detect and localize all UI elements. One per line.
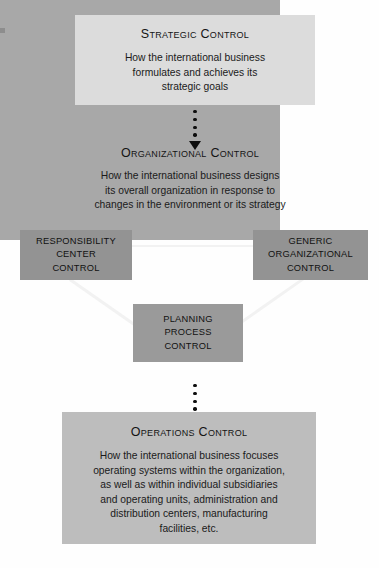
arrow-dot [193, 384, 196, 387]
body-line: facilities, etc. [71, 522, 307, 537]
body-line: distribution centers, manufacturing [71, 507, 307, 522]
connector-responsibility-to-planning [69, 278, 135, 325]
operations-control-body: How the international business focuses o… [62, 449, 316, 537]
arrow-strategic-to-organizational [187, 110, 203, 150]
body-line: as well as within individual subsidiarie… [71, 478, 307, 493]
body-line: strategic goals [84, 80, 306, 95]
subbox-line: CONTROL [287, 262, 334, 275]
arrow-dot [193, 110, 196, 113]
arrow-dot [193, 392, 196, 395]
arrow-dot [193, 133, 196, 136]
subbox-line: PROCESS [164, 326, 211, 339]
responsibility-center-control-box: RESPONSIBILITY CENTER CONTROL [20, 230, 132, 280]
organizational-control-title: Organizational Control [50, 146, 330, 161]
subbox-line: GENERIC [288, 235, 332, 248]
strategic-control-box: Strategic Control How the international … [75, 15, 315, 105]
body-line: How the international business focuses [71, 449, 307, 464]
diagram-canvas: Strategic Control How the international … [0, 0, 379, 568]
subbox-line: CONTROL [52, 262, 99, 275]
body-line: its overall organization in response to [54, 184, 326, 199]
generic-organizational-control-box: GENERIC ORGANIZATIONAL CONTROL [253, 230, 368, 280]
arrow-dot [193, 400, 196, 403]
subbox-line: CENTER [56, 248, 96, 261]
connector-responsibility-to-generic [130, 245, 254, 247]
planning-process-control-box: PLANNING PROCESS CONTROL [133, 304, 243, 362]
arrow-dot [193, 407, 196, 410]
strategic-control-title: Strategic Control [75, 27, 315, 42]
arrow-dot [193, 126, 196, 129]
operations-control-title: Operations Control [62, 425, 316, 440]
body-line: operating systems within the organizatio… [71, 464, 307, 479]
subbox-line: CONTROL [164, 340, 211, 353]
subbox-line: RESPONSIBILITY [36, 235, 116, 248]
body-line: How the international business [84, 51, 306, 66]
body-line: and operating units, administration and [71, 493, 307, 508]
subbox-line: ORGANIZATIONAL [268, 248, 353, 261]
strategic-control-body: How the international business formulate… [75, 51, 315, 95]
arrow-dot [193, 118, 196, 121]
operations-control-box: Operations Control How the international… [62, 412, 316, 544]
subbox-line: PLANNING [163, 313, 213, 326]
connector-generic-to-planning [238, 278, 304, 325]
organizational-control-body: How the international business designs i… [50, 169, 330, 213]
organizational-control-header: Organizational Control How the internati… [50, 146, 330, 213]
body-line: How the international business designs [54, 169, 326, 184]
scan-artifact-mark [0, 28, 5, 33]
body-line: formulates and achieves its [84, 66, 306, 81]
body-line: changes in the environment or its strate… [54, 198, 326, 213]
